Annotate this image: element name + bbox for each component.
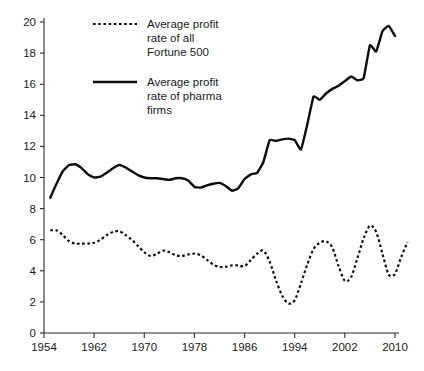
- x-axis-tick-label: 1970: [131, 341, 157, 353]
- x-axis-tick-label: 1986: [232, 341, 258, 353]
- y-axis-tick-label: 12: [23, 140, 36, 152]
- y-axis-tick-group: 02468101214161820: [23, 16, 44, 339]
- legend-label-fortune500-line2: rate of all: [147, 32, 194, 44]
- y-axis-tick-label: 4: [30, 265, 37, 277]
- legend-label-pharma-line3: firms: [147, 104, 172, 116]
- x-axis-tick-group: 19541962197019781986199420022010: [31, 333, 408, 353]
- y-axis-tick-label: 18: [23, 47, 36, 59]
- y-axis-tick-label: 8: [30, 203, 36, 215]
- chart-canvas: 02468101214161820 1954196219701978198619…: [0, 0, 424, 371]
- x-axis-tick-label: 1962: [81, 341, 107, 353]
- y-axis-tick-label: 2: [30, 296, 36, 308]
- y-axis-tick-label: 20: [23, 16, 36, 28]
- series-line-pharma: [50, 26, 395, 198]
- y-axis-tick-label: 6: [30, 234, 36, 246]
- legend-label-pharma-line2: rate of pharma: [147, 90, 222, 102]
- y-axis-tick-label: 10: [23, 172, 36, 184]
- y-axis-tick-label: 14: [23, 109, 36, 121]
- x-axis-tick-label: 1994: [282, 341, 308, 353]
- legend-label-fortune500-line1: Average profit: [147, 18, 219, 30]
- chart-legend: Average profit rate of all Fortune 500 A…: [93, 18, 222, 116]
- x-axis-tick-label: 2010: [382, 341, 408, 353]
- legend-label-pharma-line1: Average profit: [147, 76, 219, 88]
- legend-label-fortune500-line3: Fortune 500: [147, 46, 209, 58]
- series-line-fortune500: [50, 226, 407, 304]
- y-axis-tick-label: 16: [23, 78, 36, 90]
- profit-rate-line-chart: 02468101214161820 1954196219701978198619…: [0, 0, 424, 371]
- x-axis-tick-label: 1954: [31, 341, 57, 353]
- x-axis-tick-label: 2002: [332, 341, 358, 353]
- x-axis-tick-label: 1978: [182, 341, 208, 353]
- y-axis-tick-label: 0: [30, 327, 36, 339]
